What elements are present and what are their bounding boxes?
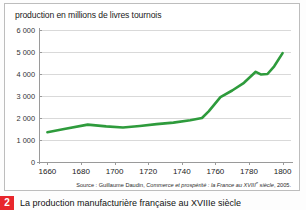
caption-strip: 2 La production manufacturière française… [0, 195, 306, 210]
x-tick-mark [182, 162, 183, 165]
x-tick-mark [283, 162, 284, 165]
y-tick-label: 3 000 [5, 92, 35, 101]
caption-text: La production manufacturière française a… [20, 198, 241, 208]
figure-root: production en millions de livres tournoi… [0, 0, 306, 210]
x-tick-label: 1780 [240, 167, 258, 176]
y-tick-label: 2 000 [5, 114, 35, 123]
x-tick-label: 1760 [206, 167, 224, 176]
source-title: Commerce et prospérité : la France au XV… [146, 182, 255, 188]
y-tick-label: 4 000 [5, 70, 35, 79]
x-tick-label: 1680 [72, 167, 90, 176]
x-tick-mark [148, 162, 149, 165]
x-tick-mark [249, 162, 250, 165]
chart-figure-box: production en millions de livres tournoi… [4, 3, 300, 191]
x-tick-label: 1700 [106, 167, 124, 176]
chart-title: production en millions de livres tournoi… [15, 10, 161, 20]
x-tick-label: 1720 [139, 167, 157, 176]
caption-number-badge: 2 [0, 196, 14, 210]
source-suffix: , 2005. [274, 182, 291, 188]
y-tick-label: 6 000 [5, 26, 35, 35]
chart-source: Source : Guillaume Daudin, Commerce et p… [5, 180, 291, 188]
y-tick-label: 1 000 [5, 136, 35, 145]
line-series-production [39, 30, 291, 162]
x-tick-mark [47, 162, 48, 165]
y-tick-label: 0 [5, 158, 35, 167]
x-axis-line [37, 162, 293, 163]
x-tick-mark [81, 162, 82, 165]
source-prefix: Source : Guillaume Daudin, [76, 182, 146, 188]
x-tick-mark [215, 162, 216, 165]
y-tick-label: 5 000 [5, 48, 35, 57]
x-tick-label: 1740 [173, 167, 191, 176]
x-tick-mark [115, 162, 116, 165]
x-tick-label: 1660 [38, 167, 56, 176]
x-tick-label: 1800 [274, 167, 292, 176]
y-tick-mark [39, 162, 42, 163]
source-title-end: siècle [258, 182, 274, 188]
